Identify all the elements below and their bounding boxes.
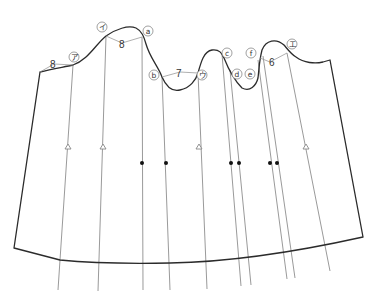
measurement-7: 7	[176, 68, 182, 79]
dot-marker-icon	[275, 161, 279, 165]
label-b: b	[149, 70, 159, 80]
svg-text:d: d	[235, 70, 240, 79]
pattern-outline	[14, 27, 363, 263]
svg-text:c: c	[225, 49, 229, 58]
measurement-8-top: 8	[119, 39, 125, 50]
guide-line-e	[263, 56, 295, 278]
guide-line-d	[230, 70, 251, 285]
guide-line-ウ	[198, 73, 207, 289]
svg-text:イ: イ	[99, 23, 106, 32]
dot-marker-icon	[140, 161, 144, 165]
pattern-diagram: 8 8 7 6 ア イ a b ウ c d e f エ	[0, 0, 374, 300]
label-d: d	[232, 69, 242, 79]
label-e: e	[245, 69, 255, 79]
match-dots	[140, 161, 279, 165]
grain-markers	[65, 144, 309, 149]
label-a: a	[143, 26, 153, 36]
dot-marker-icon	[237, 161, 241, 165]
skirt-pattern-svg: 8 8 7 6 ア イ a b ウ c d e f エ	[0, 0, 374, 300]
label-ア: ア	[69, 52, 79, 62]
label-イ: イ	[97, 22, 107, 32]
guide-line-f	[258, 60, 287, 279]
guide-lines	[58, 36, 330, 291]
label-c: c	[222, 48, 232, 58]
guide-line-エ	[287, 53, 330, 271]
guide-line-b	[162, 77, 170, 290]
svg-text:f: f	[250, 49, 253, 58]
measurement-8-left: 8	[50, 59, 56, 70]
guide-line-イ	[98, 36, 106, 291]
svg-text:エ: エ	[289, 40, 296, 49]
label-エ: エ	[287, 39, 297, 49]
triangle-marker-icon	[65, 144, 71, 149]
dot-marker-icon	[229, 161, 233, 165]
triangle-marker-icon	[100, 144, 106, 149]
dot-marker-icon	[164, 161, 168, 165]
svg-text:e: e	[248, 70, 253, 79]
svg-text:b: b	[152, 71, 157, 80]
measurement-6: 6	[269, 57, 275, 68]
svg-text:ア: ア	[71, 53, 78, 62]
label-ウ: ウ	[197, 70, 207, 80]
svg-text:ウ: ウ	[199, 71, 206, 80]
label-f: f	[246, 48, 256, 58]
svg-text:a: a	[146, 27, 151, 36]
dot-marker-icon	[268, 161, 272, 165]
guide-line-a-ア	[58, 65, 73, 290]
triangle-marker-icon	[303, 144, 309, 149]
